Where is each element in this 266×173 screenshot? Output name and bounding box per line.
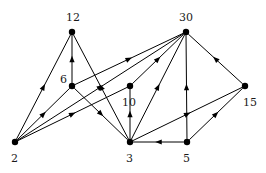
edge-arrowhead: [127, 111, 132, 118]
graph-node-2[interactable]: [12, 139, 18, 145]
graph-node-12[interactable]: [69, 29, 75, 35]
graph-node-30[interactable]: [183, 29, 189, 35]
graph-node-15[interactable]: [242, 83, 248, 89]
node-label-3: 3: [126, 153, 133, 164]
node-label-2: 2: [11, 153, 18, 164]
node-label-6: 6: [60, 74, 67, 85]
edge-arrowhead: [154, 84, 159, 91]
node-label-15: 15: [243, 97, 257, 108]
edge-arrowhead: [155, 139, 162, 144]
directed-graph-figure: 123061015235: [0, 0, 266, 173]
graph-canvas: [0, 0, 266, 173]
edge-arrowhead: [68, 113, 75, 118]
edge-arrowhead: [184, 84, 189, 91]
node-label-5: 5: [183, 153, 190, 164]
graph-node-10[interactable]: [127, 83, 133, 89]
node-label-10: 10: [122, 97, 136, 108]
graph-node-3[interactable]: [127, 139, 133, 145]
graph-node-5[interactable]: [184, 139, 190, 145]
edge-arrowhead: [40, 84, 45, 91]
edge-arrowhead: [125, 58, 132, 63]
graph-node-6[interactable]: [69, 83, 75, 89]
node-label-12: 12: [66, 12, 80, 23]
edge-arrowhead: [69, 56, 74, 63]
node-label-30: 30: [179, 12, 193, 23]
